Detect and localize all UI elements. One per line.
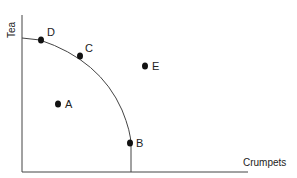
- point-e-label: E: [152, 60, 159, 72]
- point-a: A: [55, 98, 73, 110]
- point-a-label: A: [65, 98, 73, 110]
- y-axis-label: Tea: [6, 21, 17, 38]
- point-b-label: B: [136, 137, 143, 149]
- point-e: E: [142, 60, 159, 72]
- x-axis-label: Crumpets: [243, 157, 286, 168]
- point-c: C: [77, 42, 93, 60]
- point-c-label: C: [85, 42, 93, 54]
- point-b: B: [127, 137, 143, 149]
- point-d: D: [38, 26, 55, 44]
- point-d-label: D: [47, 26, 55, 38]
- frontier-curve: [22, 38, 131, 172]
- ppf-diagram: Tea Crumpets D C E A B: [0, 0, 297, 178]
